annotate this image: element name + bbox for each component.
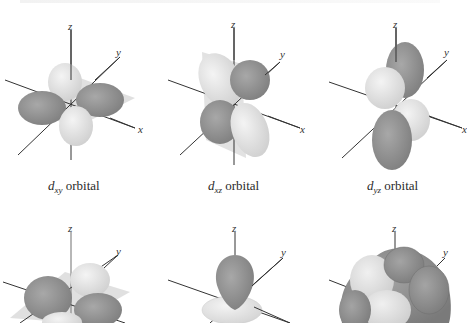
- cropped-header-remnant: [20, 0, 440, 3]
- z-axis-label: z: [391, 222, 397, 234]
- z-axis-label: z: [67, 20, 73, 32]
- y-axis-label: y: [442, 246, 448, 258]
- y-axis-label: y: [279, 48, 285, 60]
- dx2y2-orbital-diagram: z y: [0, 210, 160, 323]
- dxy-caption: dxy orbital: [48, 178, 100, 195]
- z-axis-label: z: [230, 18, 236, 30]
- x-axis-label: x: [299, 123, 305, 135]
- z-axis-label: z: [231, 222, 237, 234]
- dyz-orbital-diagram: z y x: [307, 10, 467, 170]
- dz2-orbital-diagram: z y: [150, 210, 310, 323]
- dxz-orbital-diagram: z y x: [150, 10, 310, 170]
- z-axis-label: z: [392, 18, 398, 30]
- y-axis-label: y: [115, 245, 121, 257]
- x-axis-label: x: [461, 123, 467, 135]
- dxz-caption: dxz orbital: [208, 178, 259, 195]
- y-axis-label: y: [115, 46, 121, 58]
- x-axis-label: x: [137, 123, 143, 135]
- y-axis-label: y: [443, 46, 449, 58]
- lobe-front: [59, 106, 93, 146]
- y-axis-label: y: [280, 246, 286, 258]
- dxy-orbital-diagram: z y x: [0, 10, 160, 170]
- combined-d-orbitals-diagram: z y: [307, 210, 467, 323]
- z-axis-label: z: [67, 222, 73, 234]
- dyz-caption: dyz orbital: [367, 178, 418, 195]
- lobe-left: [18, 91, 66, 125]
